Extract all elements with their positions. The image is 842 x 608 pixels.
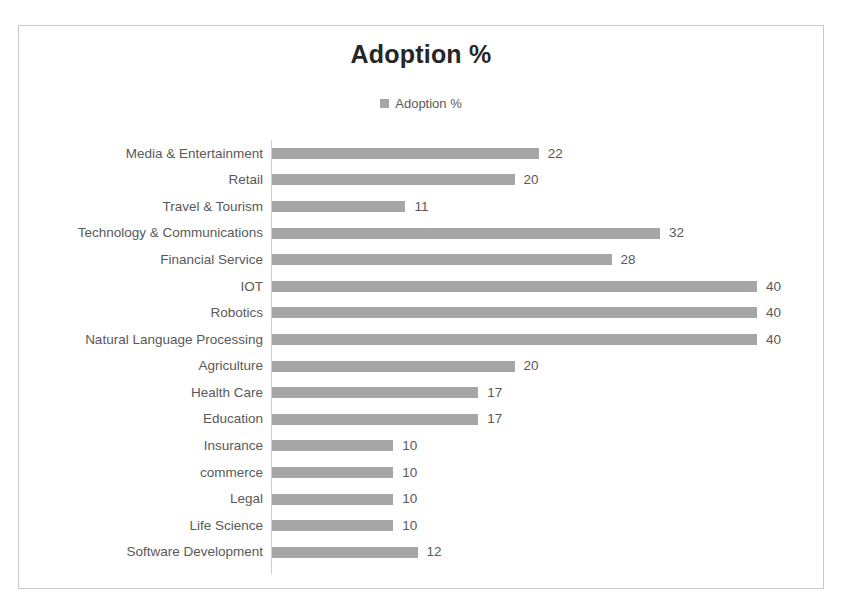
bar[interactable]	[272, 228, 660, 239]
bar-value-label: 20	[524, 173, 539, 187]
legend-entry-label: Adoption %	[395, 96, 462, 111]
bar-group: 10	[272, 433, 417, 460]
category-label: Financial Service	[19, 253, 263, 267]
category-label: Travel & Tourism	[19, 200, 263, 214]
bar-row: Health Care17	[19, 379, 825, 406]
chart-container: Adoption % Adoption % Media & Entertainm…	[18, 25, 824, 589]
bar[interactable]	[272, 174, 515, 185]
bar-group: 40	[272, 300, 781, 327]
bar-group: 17	[272, 379, 502, 406]
bar-group: 20	[272, 167, 539, 194]
bar-row: Software Development12	[19, 539, 825, 566]
bar-row: Life Science10	[19, 512, 825, 539]
bar[interactable]	[272, 361, 515, 372]
category-label: Education	[19, 412, 263, 426]
category-label: Technology & Communications	[19, 226, 263, 240]
bar[interactable]	[272, 148, 539, 159]
bar-value-label: 10	[402, 519, 417, 533]
bar[interactable]	[272, 281, 757, 292]
chart-title: Adoption %	[19, 40, 823, 69]
bar-value-label: 32	[669, 226, 684, 240]
bar-rows: Media & Entertainment22Retail20Travel & …	[19, 140, 825, 566]
bar[interactable]	[272, 334, 757, 345]
bar-row: Technology & Communications32	[19, 220, 825, 247]
bar[interactable]	[272, 520, 393, 531]
bar-group: 10	[272, 459, 417, 486]
bar-group: 10	[272, 512, 417, 539]
legend-swatch-icon	[380, 99, 389, 108]
category-label: IOT	[19, 280, 263, 294]
bar-value-label: 10	[402, 466, 417, 480]
bar-value-label: 17	[487, 412, 502, 426]
bar-value-label: 11	[414, 200, 428, 214]
bar-group: 40	[272, 326, 781, 353]
bar-group: 32	[272, 220, 684, 247]
bar-value-label: 12	[427, 545, 442, 559]
bar-group: 12	[272, 539, 442, 566]
bar-group: 10	[272, 486, 417, 513]
bar-value-label: 40	[766, 306, 781, 320]
bar-value-label: 28	[621, 253, 636, 267]
bar-row: Travel & Tourism11	[19, 193, 825, 220]
category-label: Agriculture	[19, 359, 263, 373]
chart-legend: Adoption %	[19, 96, 823, 111]
category-label: Software Development	[19, 545, 263, 559]
bar[interactable]	[272, 254, 612, 265]
bar-row: Financial Service28	[19, 246, 825, 273]
bar-row: Education17	[19, 406, 825, 433]
bar-value-label: 20	[524, 359, 539, 373]
plot-area: Media & Entertainment22Retail20Travel & …	[19, 140, 825, 585]
category-label: Media & Entertainment	[19, 147, 263, 161]
bar-row: Agriculture20	[19, 353, 825, 380]
bar-row: Robotics40	[19, 300, 825, 327]
bar-group: 22	[272, 140, 563, 167]
bar-group: 28	[272, 246, 636, 273]
category-label: Legal	[19, 492, 263, 506]
category-label: Robotics	[19, 306, 263, 320]
bar-value-label: 10	[402, 492, 417, 506]
bar-row: Insurance10	[19, 433, 825, 460]
category-label: commerce	[19, 466, 263, 480]
category-label: Health Care	[19, 386, 263, 400]
bar[interactable]	[272, 440, 393, 451]
category-label: Natural Language Processing	[19, 333, 263, 347]
bar-value-label: 10	[402, 439, 417, 453]
bar[interactable]	[272, 387, 478, 398]
bar-group: 40	[272, 273, 781, 300]
category-label: Retail	[19, 173, 263, 187]
bar-row: Media & Entertainment22	[19, 140, 825, 167]
bar-value-label: 22	[548, 147, 563, 161]
bar[interactable]	[272, 547, 418, 558]
bar-group: 11	[272, 193, 428, 220]
category-label: Life Science	[19, 519, 263, 533]
bar-row: commerce10	[19, 459, 825, 486]
category-label: Insurance	[19, 439, 263, 453]
bar[interactable]	[272, 307, 757, 318]
bar-row: Legal10	[19, 486, 825, 513]
bar-group: 20	[272, 353, 539, 380]
bar[interactable]	[272, 414, 478, 425]
bar[interactable]	[272, 467, 393, 478]
bar-row: Natural Language Processing40	[19, 326, 825, 353]
bar-value-label: 17	[487, 386, 502, 400]
bar-value-label: 40	[766, 333, 781, 347]
bar-row: IOT40	[19, 273, 825, 300]
bar[interactable]	[272, 494, 393, 505]
bar[interactable]	[272, 201, 405, 212]
bar-row: Retail20	[19, 167, 825, 194]
bar-value-label: 40	[766, 280, 781, 294]
bar-group: 17	[272, 406, 502, 433]
